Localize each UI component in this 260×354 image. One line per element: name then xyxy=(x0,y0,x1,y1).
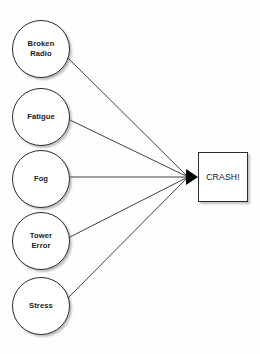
cause-node-stress[interactable]: Stress xyxy=(12,277,70,335)
cause-node-broken-radio[interactable]: Broken Radio xyxy=(12,20,70,78)
edge-fatigue-to-crash xyxy=(70,120,188,177)
edge-broken-radio-to-crash xyxy=(68,58,188,177)
cause-node-fog[interactable]: Fog xyxy=(12,150,70,208)
cause-label-fog: Fog xyxy=(34,174,48,184)
cause-label-broken-radio: Broken Radio xyxy=(28,39,55,58)
cause-node-tower-error[interactable]: Tower Error xyxy=(12,212,70,270)
cause-label-stress: Stress xyxy=(29,301,53,311)
diagram-canvas: Broken Radio Fatigue Fog Tower Error Str… xyxy=(0,0,260,354)
edge-tower-error-to-crash xyxy=(68,177,188,238)
cause-label-fatigue: Fatigue xyxy=(27,112,55,122)
cause-label-tower-error: Tower Error xyxy=(30,231,52,250)
effect-label-crash: CRASH! xyxy=(206,172,240,182)
edge-stress-to-crash xyxy=(66,177,188,300)
effect-node-crash[interactable]: CRASH! xyxy=(198,152,248,202)
arrowhead-icon xyxy=(186,169,198,185)
cause-node-fatigue[interactable]: Fatigue xyxy=(12,88,70,146)
